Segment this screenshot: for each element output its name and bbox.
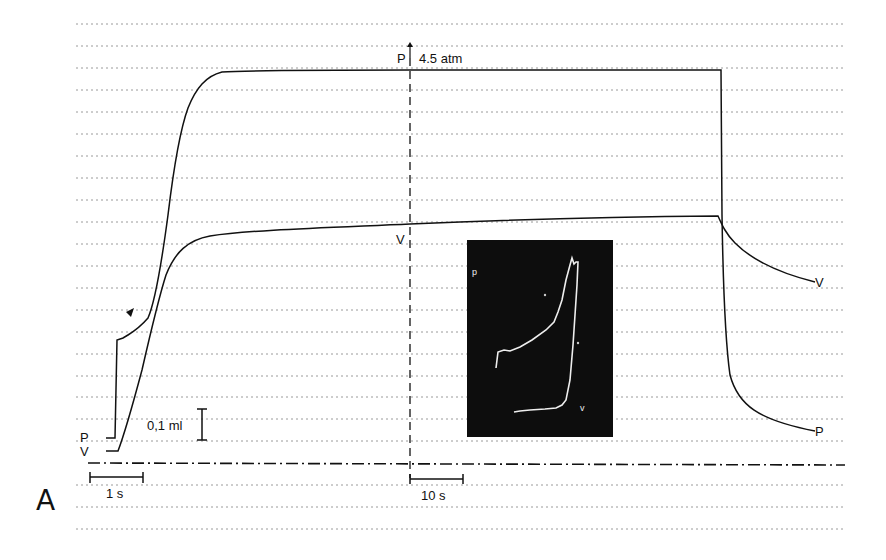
volume-scale-bar [197,409,207,440]
label-time-scale-10s: 10 s [421,488,446,503]
label-time-scale-1s: 1 s [106,486,124,501]
label-p-end: P [815,424,824,439]
label-v-mid: V [396,232,405,247]
volume-trace [106,216,815,451]
label-v-start: V [80,444,89,459]
label-v-end: V [815,275,824,290]
label-p-top: P [397,51,406,66]
zero-baseline [88,463,845,465]
inflection-arrow-icon [126,308,134,317]
panel-label: A [36,484,55,517]
pressure-trace [106,70,815,438]
inset-pv-loop: p v [467,240,613,437]
inset-axis-v: v [580,403,585,413]
label-p-start: P [80,430,89,445]
time-scale-bar-10s [410,474,463,484]
time-scale-bar-1s [90,472,143,483]
label-volume-scale: 0,1 ml [147,418,183,433]
inset-axis-p: p [472,267,477,277]
pv-recording-figure: p v P 4.5 atm V P V V P 0,1 ml 1 s 10 s [0,0,886,560]
label-pressure-peak: 4.5 atm [419,51,462,66]
